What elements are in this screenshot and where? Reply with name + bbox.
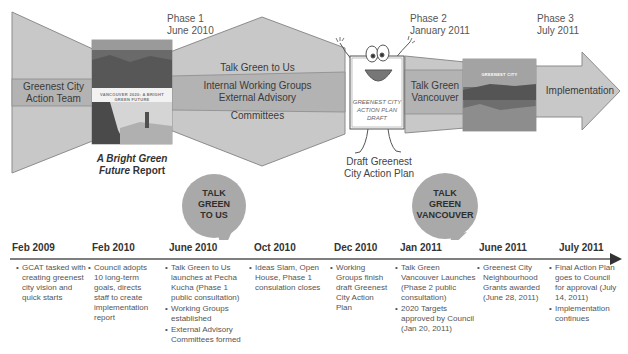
phase-2-label: Phase 2 January 2011 — [410, 13, 470, 37]
mascot-sign-line2: ACTION PLAN — [352, 106, 402, 114]
timeline-entry-july-2011: Final Action Plan goes to Council for ap… — [549, 263, 619, 325]
timeline-item: Working Groups finish draft Greenest Cit… — [330, 263, 392, 313]
report-caption-title-1: A Bright Green — [97, 153, 168, 164]
bubble2-line1: TALK — [410, 188, 480, 199]
report-caption-suffix: Report — [130, 165, 165, 176]
stage3-line2: Vancouver — [405, 92, 465, 104]
timeline-date: June 2011 — [479, 242, 527, 253]
phase-2-date: January 2011 — [410, 25, 470, 37]
implementation-label: Implementation — [540, 85, 620, 97]
timeline-entry-dec-2010: Working Groups finish draft Greenest Cit… — [330, 263, 392, 314]
stage3-line1: Talk Green — [405, 80, 465, 92]
timeline-item: 2020 Targets approved by Council (Jan 20… — [395, 304, 477, 334]
phase-1-title: Phase 1 — [167, 13, 214, 25]
report-caption: A Bright Green Future Report — [88, 153, 176, 177]
mascot-sign-line3: DRAFT — [352, 114, 402, 122]
timeline-item: Council adopts 10 long-term goals, direc… — [88, 263, 158, 323]
working-groups-label: Internal Working Groups External Advisor… — [170, 80, 345, 104]
stage1-line2: Action Team — [12, 93, 95, 105]
timeline-date: Jan 2011 — [400, 242, 442, 253]
greenest-city-action-team-label: Greenest City Action Team — [12, 81, 95, 105]
timeline-item: Talk Green to Us launches at Pecha Kucha… — [165, 263, 247, 303]
mascot-sign: GREENEST CITY ACTION PLAN DRAFT — [352, 98, 402, 122]
timeline-date: July 2011 — [559, 242, 603, 253]
phase-2-title: Phase 2 — [410, 13, 470, 25]
phase-1-date: June 2010 — [167, 25, 214, 37]
timeline-item: Final Action Plan goes to Council for ap… — [549, 263, 619, 303]
timeline-entry-june-2010: Talk Green to Us launches at Pecha Kucha… — [165, 263, 247, 346]
timeline-date: Feb 2010 — [92, 242, 135, 253]
timeline-item: External Advisory Committees formed — [165, 325, 247, 345]
draft-plan-caption-line2: City Action Plan — [335, 168, 423, 180]
timeline-date: Oct 2010 — [254, 242, 296, 253]
timeline-entry-jan-2011: Talk Green Vancouver Launches (Phase 2 p… — [395, 263, 477, 335]
timeline-date: Dec 2010 — [334, 242, 377, 253]
timeline-entry-oct-2010: Ideas Slam, Open House, Phase 1 consulat… — [249, 263, 329, 294]
draft-plan-caption: Draft Greenest City Action Plan — [335, 156, 423, 180]
draft-plan-mascot — [336, 36, 415, 153]
stage1-line1: Greenest City — [12, 81, 95, 93]
report-cover-title: VANCOUVER 2020: A BRIGHT GREEN FUTURE — [94, 92, 170, 102]
talk-green-to-us-bubble-text: TALK GREEN TO US — [184, 188, 244, 221]
bubble2-line3: VANCOUVER — [410, 210, 480, 221]
timeline-item: GCAT tasked with creating greenest city … — [16, 263, 86, 303]
phase-3-date: July 2011 — [537, 25, 579, 37]
timeline-entry-feb-2009: GCAT tasked with creating greenest city … — [16, 263, 86, 304]
bubble1-line1: TALK — [184, 188, 244, 199]
timeline-entry-feb-2010: Council adopts 10 long-term goals, direc… — [88, 263, 158, 324]
timeline-item: Working Groups established — [165, 304, 247, 324]
mascot-sign-line1: GREENEST CITY — [352, 98, 402, 106]
talk-green-vancouver-bubble-text: TALK GREEN VANCOUVER — [410, 188, 480, 221]
bubble2-line2: GREEN — [410, 199, 480, 210]
bubble1-line2: GREEN — [184, 199, 244, 210]
phase-3-title: Phase 3 — [537, 13, 579, 25]
phase-3-label: Phase 3 July 2011 — [537, 13, 579, 37]
timeline-item: Talk Green Vancouver Launches (Phase 2 p… — [395, 263, 477, 303]
report-caption-title-2: Future — [99, 165, 130, 176]
bubble1-line3: TO US — [184, 210, 244, 221]
phase-1-label: Phase 1 June 2010 — [167, 13, 214, 37]
timeline-item: Implementation continues — [549, 304, 619, 324]
stage2-band-line1: Internal Working Groups — [170, 80, 345, 92]
committees-label: Committees — [170, 110, 345, 122]
timeline-item: Greenest City Neighbourhood Grants award… — [477, 263, 553, 303]
draft-plan-caption-line1: Draft Greenest — [335, 156, 423, 168]
talk-green-vancouver-label: Talk Green Vancouver — [405, 80, 465, 104]
timeline-item: Ideas Slam, Open House, Phase 1 consulat… — [249, 263, 329, 293]
stage2-band-line2: External Advisory — [170, 92, 345, 104]
vancouver-cover-title: GREENEST CITY — [463, 72, 536, 77]
timeline-date: Feb 2009 — [12, 242, 55, 253]
timeline-entry-june-2011: Greenest City Neighbourhood Grants award… — [477, 263, 553, 304]
talk-green-vancouver-cover-image — [463, 59, 536, 131]
timeline-date: June 2010 — [169, 242, 217, 253]
talk-green-to-us-label: Talk Green to Us — [170, 62, 345, 74]
